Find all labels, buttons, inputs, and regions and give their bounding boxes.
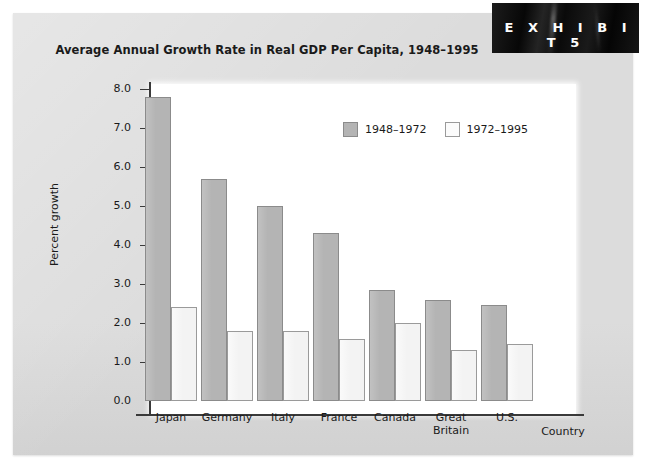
y-axis-tick-label: 6.0 xyxy=(97,160,131,173)
bar-u-s--series-1948-1972 xyxy=(481,305,507,401)
y-axis-tick-label: 7.0 xyxy=(97,121,131,134)
bar-italy-series-1972-1995 xyxy=(283,331,309,401)
x-axis-label-line: Japan xyxy=(141,411,201,424)
x-axis-label-line: Italy xyxy=(253,411,313,424)
x-axis-label-line: Germany xyxy=(197,411,257,424)
x-axis-label-germany: Germany xyxy=(197,411,257,424)
y-axis-tick xyxy=(140,89,150,90)
legend-item-series-b: 1972–1995 xyxy=(445,122,529,137)
exhibit-figure: Average Annual Growth Rate in Real GDP P… xyxy=(0,0,646,466)
bar-great-britain-series-1972-1995 xyxy=(451,350,477,401)
bar-great-britain-series-1948-1972 xyxy=(425,300,451,401)
bar-france-series-1972-1995 xyxy=(339,339,365,401)
y-axis-tick-label: 8.0 xyxy=(97,82,131,95)
bar-italy-series-1948-1972 xyxy=(257,206,283,401)
legend-swatch-1948-1972 xyxy=(343,122,358,137)
bar-japan-series-1972-1995 xyxy=(171,307,197,401)
legend-label-1948-1972: 1948–1972 xyxy=(365,123,427,136)
x-axis-title: Country xyxy=(521,425,605,438)
x-axis-label-line: Great xyxy=(421,411,481,424)
y-axis-tick-label: 0.0 xyxy=(97,394,131,407)
chart-legend: 1948–1972 1972–1995 xyxy=(343,122,528,137)
exhibit-banner: E X H I B I T 5 xyxy=(492,3,639,53)
x-axis-label-line: Britain xyxy=(421,424,481,437)
bar-germany-series-1972-1995 xyxy=(227,331,253,401)
y-axis-tick-label: 5.0 xyxy=(97,199,131,212)
bar-japan-series-1948-1972 xyxy=(145,97,171,401)
y-axis-tick-label: 3.0 xyxy=(97,277,131,290)
exhibit-number-label: E X H I B I T 5 xyxy=(492,20,639,50)
bar-u-s--series-1972-1995 xyxy=(507,344,533,401)
y-axis-tick-label: 1.0 xyxy=(97,355,131,368)
bar-canada-series-1972-1995 xyxy=(395,323,421,401)
bar-canada-series-1948-1972 xyxy=(369,290,395,401)
legend-swatch-1972-1995 xyxy=(445,122,460,137)
x-axis-label-italy: Italy xyxy=(253,411,313,424)
x-axis-label-line: U.S. xyxy=(477,411,537,424)
x-axis-label-france: France xyxy=(309,411,369,424)
x-axis-label-line: France xyxy=(309,411,369,424)
x-axis-label-great-britain: GreatBritain xyxy=(421,411,481,437)
legend-label-1972-1995: 1972–1995 xyxy=(467,123,529,136)
bar-france-series-1948-1972 xyxy=(313,233,339,401)
x-axis-label-canada: Canada xyxy=(365,411,425,424)
x-axis-label-u-s-: U.S. xyxy=(477,411,537,424)
y-axis-title: Percent growth xyxy=(48,160,61,290)
x-axis-label-japan: Japan xyxy=(141,411,201,424)
bar-germany-series-1948-1972 xyxy=(201,179,227,401)
x-axis-label-line: Canada xyxy=(365,411,425,424)
y-axis-tick-label: 2.0 xyxy=(97,316,131,329)
chart-title: Average Annual Growth Rate in Real GDP P… xyxy=(47,43,487,57)
y-axis-tick-label: 4.0 xyxy=(97,238,131,251)
exhibit-panel: Average Annual Growth Rate in Real GDP P… xyxy=(13,13,633,455)
legend-item-series-a: 1948–1972 xyxy=(343,122,427,137)
